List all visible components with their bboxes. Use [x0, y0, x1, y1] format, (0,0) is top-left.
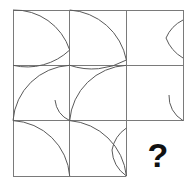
cell-r3c2 — [70, 121, 127, 176]
cell-r3c1 — [13, 121, 70, 176]
cell-r1c2-arc-bl-to-right — [70, 60, 127, 69]
cell-r1c3-arc-upper-inward — [166, 20, 183, 38]
cell-r1c1 — [13, 10, 70, 67]
cell-r1c3-arc-lower-inward — [166, 38, 183, 58]
cell-r2c2-arc-tr-to-bl — [70, 65, 127, 120]
cell-r3c1-arc-tl-to-br — [13, 121, 70, 176]
cell-r2c1-arc-small-to-br — [55, 100, 70, 121]
cell-r3c2-arc-tr-to-br — [112, 128, 126, 150]
cell-r2c1 — [13, 65, 70, 120]
cell-r1c2 — [70, 10, 127, 69]
missing-cell-question-mark: ? — [144, 136, 172, 174]
cell-r2c3-arc-small-br — [169, 95, 183, 121]
cell-r2c3 — [169, 95, 183, 121]
cell-r1c1-arc-tl-to-right — [13, 10, 70, 50]
matrix-puzzle: ? — [0, 0, 195, 186]
cell-r3c2-arc-inner-to-br — [112, 150, 126, 176]
cell-r1c2-arc-tl-to-right — [70, 10, 127, 60]
cell-r1c1-arc-bl-to-right — [13, 50, 70, 67]
cell-r2c1-arc-tr-to-bl — [13, 65, 70, 120]
cell-r1c3 — [166, 20, 183, 58]
cell-r2c2 — [70, 65, 127, 120]
